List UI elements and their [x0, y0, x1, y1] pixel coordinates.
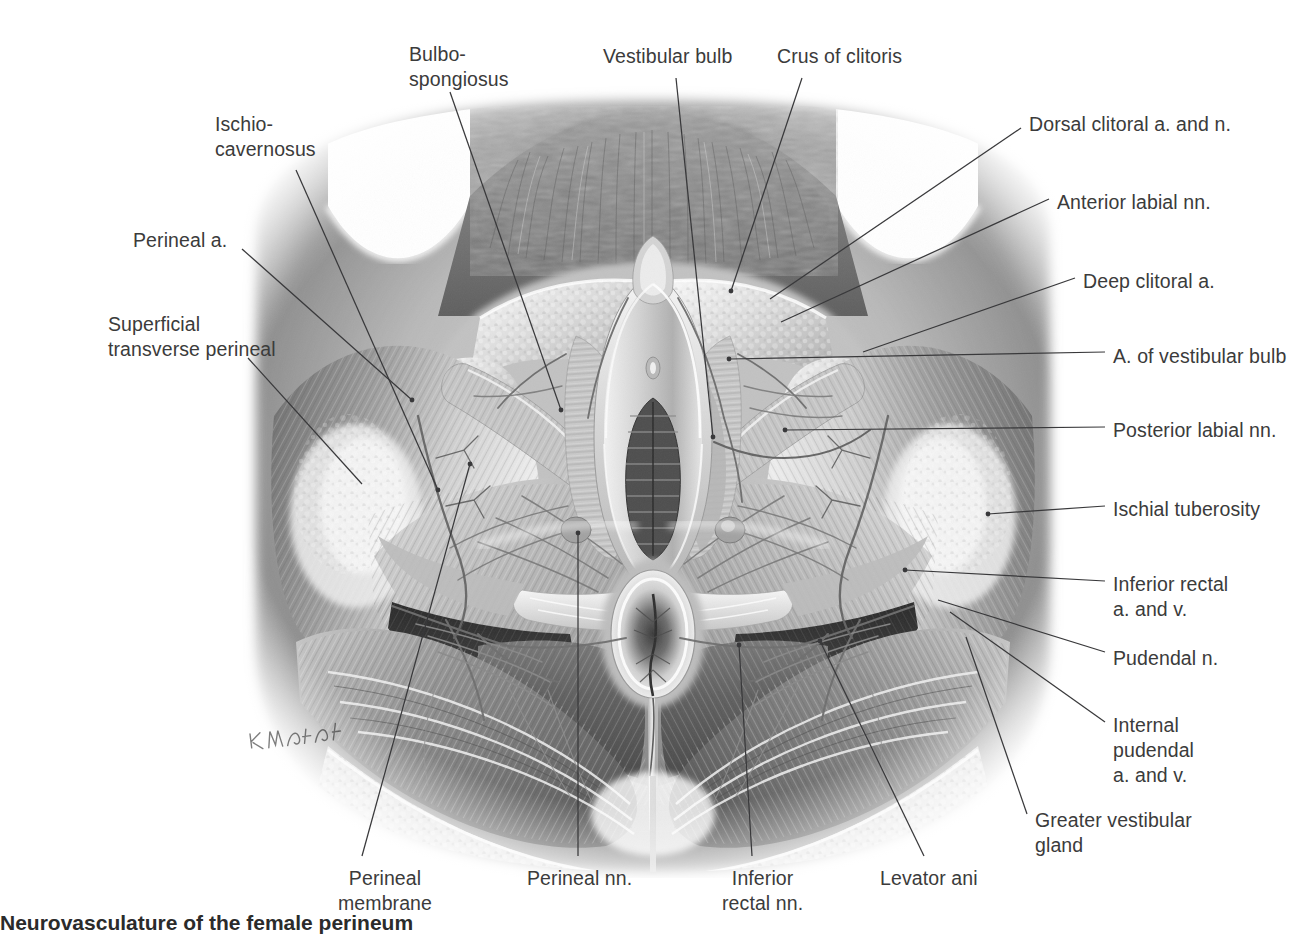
anatomical-illustration	[178, 86, 1128, 878]
label-pudendal-n: Pudendal n.	[1113, 646, 1218, 671]
label-ischial-tuberosity: Ischial tuberosity	[1113, 497, 1260, 522]
label-perineal-nn: Perineal nn.	[527, 866, 632, 891]
label-inferior-rectal-a-and-v: Inferior rectal a. and v.	[1113, 572, 1228, 622]
label-anterior-labial-nn: Anterior labial nn.	[1057, 190, 1211, 215]
label-crus-of-clitoris: Crus of clitoris	[777, 44, 902, 69]
label-inferior-rectal-nn: Inferior rectal nn.	[722, 866, 803, 916]
caption-title: Neurovasculature of the female perineum	[0, 915, 413, 934]
label-ischiocavernosus: Ischio- cavernosus	[215, 112, 316, 162]
label-posterior-labial-nn: Posterior labial nn.	[1113, 418, 1277, 443]
label-bulbospongiosus: Bulbo- spongiosus	[409, 42, 509, 92]
label-levator-ani: Levator ani	[880, 866, 978, 891]
label-perineal-membrane: Perineal membrane	[338, 866, 432, 916]
label-superficial-transverse-perineal: Superficial transverse perineal	[108, 312, 276, 362]
label-a-of-vestibular-bulb: A. of vestibular bulb	[1113, 344, 1286, 369]
label-vestibular-bulb: Vestibular bulb	[603, 44, 732, 69]
anatomy-plate: Ischio- cavernosus Perineal a. Superfici…	[0, 0, 1302, 934]
label-internal-pudendal-a-and-v: Internal pudendal a. and v.	[1113, 713, 1194, 788]
label-greater-vestibular-gland: Greater vestibular gland	[1035, 808, 1192, 858]
label-perineal-artery: Perineal a.	[133, 228, 227, 253]
label-deep-clitoral-a: Deep clitoral a.	[1083, 269, 1215, 294]
plate-caption: Neurovasculature of the female perineum	[0, 915, 1302, 934]
label-dorsal-clitoral-a-and-n: Dorsal clitoral a. and n.	[1029, 112, 1231, 137]
